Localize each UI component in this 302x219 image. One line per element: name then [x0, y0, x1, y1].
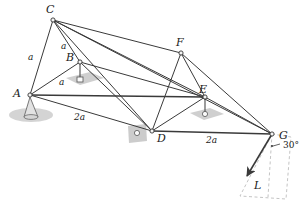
support-foot-e	[202, 111, 207, 116]
node-label-b: B	[66, 52, 74, 63]
space-truss-figure: A B C D E F G a a a 2a 2a L 30°	[0, 0, 302, 219]
member-a-e	[30, 95, 205, 97]
member-a-c	[30, 20, 53, 95]
dimension-label-2a-dg: 2a	[206, 136, 217, 145]
dimension-label-a-ac: a	[28, 53, 33, 62]
dimension-label-a-cb: a	[61, 42, 66, 51]
support-foot-b	[77, 77, 83, 82]
member-c-d	[53, 20, 152, 131]
member-c-f	[53, 20, 181, 53]
load-angle-label: 30°	[283, 141, 299, 150]
joint-f	[179, 51, 183, 55]
truss-joints	[28, 18, 274, 136]
node-label-c: C	[46, 4, 54, 15]
member-d-g	[152, 131, 272, 134]
dimension-label-2a-ad: 2a	[74, 113, 85, 122]
joint-d	[150, 129, 154, 133]
joint-a	[28, 93, 32, 97]
joint-g	[270, 132, 274, 136]
member-d-f	[152, 53, 181, 131]
support-foot-d	[134, 130, 139, 135]
load-plane-vertical-reference	[268, 134, 272, 197]
load-label-l: L	[254, 180, 261, 191]
node-label-d: D	[157, 133, 166, 144]
support-pad-b	[66, 72, 104, 85]
dimension-label-a-ab: a	[59, 78, 64, 87]
node-label-f: F	[176, 37, 184, 48]
node-label-a: A	[13, 88, 21, 99]
node-label-e: E	[199, 84, 207, 95]
truss-members	[30, 20, 272, 134]
angle-leader	[271, 144, 280, 147]
joint-b	[78, 60, 82, 64]
joint-c	[51, 18, 55, 22]
load-arrow-l	[247, 134, 272, 176]
